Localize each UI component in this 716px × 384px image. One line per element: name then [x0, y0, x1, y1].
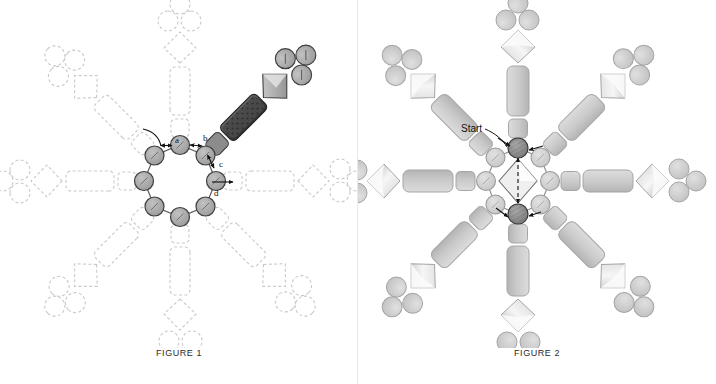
label-c: c: [219, 159, 223, 169]
solid-arm-upper-right: [533, 33, 666, 166]
dashed-arm-top: [158, 0, 201, 137]
figure-2-panel: Start FIGURE 2: [358, 0, 716, 384]
figure-1-caption: FIGURE 1: [0, 348, 358, 358]
solid-arm-top: [496, 0, 539, 138]
solid-arm-upper-left: [370, 33, 503, 166]
dashed-arm-upper-left: [32, 34, 164, 166]
solid-arm-left: [358, 160, 475, 203]
arrow-b: [190, 145, 202, 146]
arrow-to-start-subunit: [498, 138, 510, 146]
figure-1-central-ring: [135, 136, 226, 227]
panel-divider: [357, 0, 358, 384]
figure-2-drawing: Start: [358, 0, 716, 348]
label-b: b: [203, 133, 208, 143]
solid-arm-bottom: [497, 224, 540, 348]
figure-1-panel: a b c d FIGURE 1: [0, 0, 358, 384]
figure-2-arms: [358, 0, 706, 348]
solid-arm-right: [561, 159, 706, 202]
label-a: a: [175, 135, 179, 145]
figure-sheet: a b c d FIGURE 1: [0, 0, 716, 384]
figure-1-highlighted-arm: [195, 33, 328, 166]
label-start: Start: [461, 123, 482, 134]
dashed-arm-left: [0, 160, 136, 203]
ring-dark-subunit-top-texture: [509, 139, 527, 157]
dashed-arm-lower-left: [33, 197, 165, 329]
curved-rotation-arrow: [143, 129, 161, 146]
dashed-arm-bottom: [159, 225, 202, 348]
label-d: d: [214, 188, 219, 198]
ring-dark-subunit-bottom-texture: [509, 205, 527, 223]
dashed-arm-right: [224, 159, 358, 202]
figure-2-caption: FIGURE 2: [358, 348, 716, 358]
figure-1-drawing: a b c d: [0, 0, 358, 348]
solid-arm-lower-left: [370, 197, 503, 330]
dashed-arm-lower-right: [196, 197, 328, 329]
solid-arm-lower-right: [534, 196, 667, 329]
